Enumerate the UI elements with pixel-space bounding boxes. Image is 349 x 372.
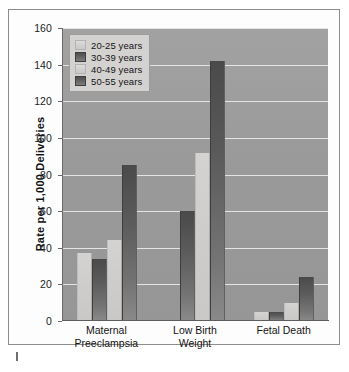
legend-label: 30-39 years xyxy=(91,52,142,63)
x-tick-label: Low BirthWeight xyxy=(151,324,240,350)
legend-swatch-icon xyxy=(75,40,86,50)
bar xyxy=(195,153,210,321)
bar xyxy=(284,303,299,321)
bar-group xyxy=(151,28,239,321)
bar-group xyxy=(240,28,328,321)
x-tick-label-line: Fetal Death xyxy=(239,324,328,337)
y-tick-label: 100 xyxy=(8,132,52,144)
bar xyxy=(122,165,137,321)
legend-swatch-icon xyxy=(75,76,86,86)
bar xyxy=(210,61,225,321)
legend-item: 30-39 years xyxy=(75,51,142,63)
y-tick-mark xyxy=(58,321,62,322)
legend-label: 20-25 years xyxy=(91,40,142,51)
y-tick-label: 40 xyxy=(8,242,52,254)
legend-item: 50-55 years xyxy=(75,75,142,87)
x-tick-label-line: Preeclampsia xyxy=(62,337,151,350)
legend-label: 50-55 years xyxy=(91,76,142,87)
y-tick-label: 120 xyxy=(8,95,52,107)
bar-cluster xyxy=(254,28,314,321)
chart-page: Rate per 1,000 Deliveries 16014012010080… xyxy=(0,0,349,372)
x-axis-line xyxy=(62,320,329,321)
x-tick-label-line: Weight xyxy=(151,337,240,350)
x-tick-label: Fetal Death xyxy=(239,324,328,350)
bar xyxy=(77,253,92,321)
bar-cluster xyxy=(165,28,225,321)
y-tick-label: 140 xyxy=(8,59,52,71)
legend-item: 40-49 years xyxy=(75,63,142,75)
x-axis-labels: MaternalPreeclampsiaLow BirthWeightFetal… xyxy=(62,324,328,350)
x-tick-label-line: Low Birth xyxy=(151,324,240,337)
y-tick-label: 60 xyxy=(8,205,52,217)
legend-label: 40-49 years xyxy=(91,64,142,75)
legend-swatch-icon xyxy=(75,52,86,62)
y-tick-label: 0 xyxy=(8,315,52,327)
bar xyxy=(92,259,107,321)
legend: 20-25 years30-39 years40-49 years50-55 y… xyxy=(69,34,150,92)
legend-item: 20-25 years xyxy=(75,39,142,51)
y-tick-label: 160 xyxy=(8,22,52,34)
y-tick-label: 20 xyxy=(8,278,52,290)
bar xyxy=(299,277,314,321)
bar xyxy=(107,240,122,321)
x-tick-label-line: Maternal xyxy=(62,324,151,337)
bar xyxy=(180,211,195,321)
x-tick-label: MaternalPreeclampsia xyxy=(62,324,151,350)
legend-swatch-icon xyxy=(75,64,86,74)
figure-corner-tick xyxy=(16,352,18,361)
y-tick-label: 80 xyxy=(8,169,52,181)
